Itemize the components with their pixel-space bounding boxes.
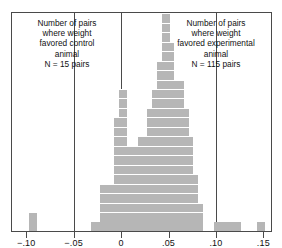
histogram-block xyxy=(166,70,175,79)
x-axis-tick-label: 0 xyxy=(118,238,123,248)
histogram-block xyxy=(190,193,199,202)
annotation-line: animal xyxy=(22,49,112,59)
experimental-annotation: Number of pairswhere weightfavored exper… xyxy=(160,18,272,69)
histogram-block xyxy=(185,136,194,145)
histogram-block xyxy=(119,98,128,107)
annotation-line: Number of pairs xyxy=(22,18,112,28)
annotation-line: where weight xyxy=(22,28,112,38)
annotation-line: where weight xyxy=(160,28,272,38)
annotation-line: favored control xyxy=(22,38,112,48)
annotation-line: N = 115 pairs xyxy=(160,59,272,69)
histogram-bar xyxy=(233,222,242,231)
histogram-block xyxy=(119,89,128,98)
histogram-block xyxy=(176,80,185,89)
annotation-line: animal xyxy=(160,49,272,59)
x-axis-tick-label: −.05 xyxy=(64,238,83,248)
x-axis-tick-label: .10 xyxy=(209,238,222,248)
x-axis-tick-label: .15 xyxy=(257,238,270,248)
x-axis-tick-label: −.10 xyxy=(17,238,36,248)
histogram-bar xyxy=(257,222,266,231)
histogram-block xyxy=(119,136,128,145)
histogram-block xyxy=(119,117,128,126)
histogram-block xyxy=(119,127,128,136)
histogram-block xyxy=(190,174,199,183)
x-axis-tick-label: .05 xyxy=(162,238,175,248)
histogram-block xyxy=(176,89,185,98)
histogram-block xyxy=(185,165,194,174)
histogram-block xyxy=(29,212,38,221)
annotation-line: Number of pairs xyxy=(160,18,272,28)
histogram-block xyxy=(233,222,242,231)
histogram-figure: −.10−.050.05.10.15 Number of pairswhere … xyxy=(0,0,282,248)
histogram-block xyxy=(181,108,190,117)
histogram-block xyxy=(195,203,204,212)
histogram-bar xyxy=(29,212,38,231)
histogram-block xyxy=(195,212,204,221)
histogram-block xyxy=(257,222,266,231)
annotation-line: N = 15 pairs xyxy=(22,59,112,69)
histogram-block xyxy=(181,127,190,136)
annotation-line: favored experimental xyxy=(160,38,272,48)
histogram-bar xyxy=(195,203,204,231)
histogram-block xyxy=(185,146,194,155)
histogram-block xyxy=(119,108,128,117)
control-annotation: Number of pairswhere weightfavored contr… xyxy=(22,18,112,69)
histogram-block xyxy=(29,222,38,231)
histogram-block xyxy=(185,155,194,164)
histogram-block xyxy=(181,117,190,126)
histogram-block xyxy=(176,98,185,107)
histogram-block xyxy=(190,184,199,193)
histogram-block xyxy=(195,222,204,231)
